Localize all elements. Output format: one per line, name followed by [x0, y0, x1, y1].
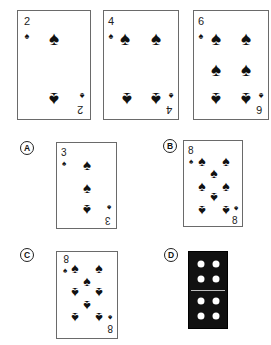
- rank-label: 8: [107, 323, 113, 334]
- domino-dot: [198, 276, 205, 283]
- spade-icon: ♠: [83, 299, 90, 313]
- spade-icon: ♠: [83, 203, 91, 218]
- rank-label: 3: [61, 147, 67, 158]
- spade-icon: ♠: [241, 90, 251, 109]
- domino-dot: [213, 298, 220, 305]
- domino-dot: [213, 313, 220, 320]
- domino-dot: [213, 261, 220, 268]
- domino-dot: [213, 276, 220, 283]
- spade-icon: ♠: [210, 166, 217, 180]
- spade-icon: ♠: [211, 29, 221, 48]
- spade-icon: ♠: [83, 180, 91, 195]
- spade-icon: ♠: [241, 60, 251, 79]
- spade-icon: ♠: [95, 311, 102, 325]
- spade-icon: ♠: [199, 32, 204, 41]
- option-c-label[interactable]: C: [20, 248, 34, 262]
- spade-icon: ♠: [198, 204, 205, 218]
- spade-icon: ♠: [109, 32, 114, 41]
- spade-icon: ♠: [62, 160, 66, 168]
- rank-label: 8: [63, 253, 69, 264]
- option-d-label[interactable]: D: [164, 248, 178, 262]
- spade-icon: ♠: [151, 90, 161, 109]
- spade-icon: ♠: [241, 29, 251, 48]
- spade-icon: ♠: [211, 90, 221, 109]
- sequence-card-6-spades: 6 ♠ ♠ ♠ ♠ ♠ ♠ ♠ ♠ 6: [193, 10, 269, 120]
- rank-label: 8: [188, 145, 194, 156]
- spade-icon: ♠: [95, 286, 102, 300]
- spade-icon: ♠: [83, 157, 91, 172]
- rank-label: 3: [105, 215, 111, 226]
- spade-icon: ♠: [222, 179, 229, 193]
- rank-label: 8: [232, 215, 238, 226]
- spade-icon: ♠: [259, 91, 264, 100]
- spade-icon: ♠: [71, 286, 78, 300]
- sequence-card-2-spades: 2 ♠ ♠ ♠ ♠ 2: [17, 10, 91, 120]
- spade-icon: ♠: [71, 311, 78, 325]
- rank-label: 6: [198, 16, 204, 27]
- rank-label: 4: [108, 16, 114, 27]
- sequence-card-4-spades: 4 ♠ ♠ ♠ ♠ ♠ ♠ 4: [103, 10, 179, 120]
- spade-icon: ♠: [107, 203, 111, 211]
- spade-icon: ♠: [234, 204, 238, 212]
- option-b-label[interactable]: B: [163, 139, 177, 153]
- option-b-card-8-spades[interactable]: 8 ♠ ♠ ♠ ♠ ♠ ♠ ♠ ♠ ♠ ♠ 8: [183, 140, 243, 227]
- spade-icon: ♠: [211, 60, 221, 79]
- spade-icon: ♠: [210, 191, 217, 205]
- spade-icon: ♠: [49, 90, 59, 109]
- spade-icon: ♠: [198, 179, 205, 193]
- option-a-card-3-spades[interactable]: 3 ♠ ♠ ♠ ♠ ♠ 3: [56, 142, 117, 229]
- spade-icon: ♠: [71, 261, 78, 275]
- domino-dot: [198, 261, 205, 268]
- domino-dot: [198, 313, 205, 320]
- rank-label: 2: [24, 16, 30, 27]
- spade-icon: ♠: [198, 154, 205, 168]
- spade-icon: ♠: [63, 267, 67, 275]
- option-d-domino[interactable]: [188, 251, 228, 329]
- option-c-card-8-spades-inverted[interactable]: 8 ♠ ♠ ♠ ♠ ♠ ♠ ♠ ♠ ♠ ♠ 8: [56, 251, 118, 339]
- spade-icon: ♠: [222, 154, 229, 168]
- domino-dot: [198, 298, 205, 305]
- spade-icon: ♠: [80, 91, 85, 100]
- spade-icon: ♠: [95, 261, 102, 275]
- spade-icon: ♠: [49, 29, 59, 48]
- spade-icon: ♠: [189, 158, 193, 166]
- spade-icon: ♠: [169, 91, 174, 100]
- spade-icon: ♠: [151, 29, 161, 48]
- spade-icon: ♠: [83, 274, 90, 288]
- domino-divider: [191, 290, 225, 291]
- spade-icon: ♠: [122, 90, 132, 109]
- spade-icon: ♠: [120, 29, 130, 48]
- rank-label: 6: [256, 104, 262, 115]
- spade-icon: ♠: [25, 32, 30, 41]
- spade-icon: ♠: [222, 204, 229, 218]
- rank-label: 4: [166, 104, 172, 115]
- option-a-label[interactable]: A: [20, 141, 34, 155]
- rank-label: 2: [77, 104, 83, 115]
- spade-icon: ♠: [108, 313, 112, 321]
- inverted-card-face: 8 ♠ ♠ ♠ ♠ ♠ ♠ ♠ ♠ ♠ ♠ 8: [57, 252, 117, 338]
